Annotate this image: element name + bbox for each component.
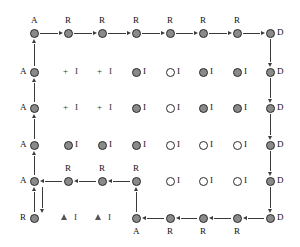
- edge-line-e-top-2: [74, 33, 92, 34]
- node-n-r3c4[interactable]: [132, 104, 141, 113]
- node-n-r6c8[interactable]: [266, 214, 275, 223]
- node-label-n-r1c2: R: [65, 16, 71, 25]
- edge-line-e-bottom-4: [147, 218, 165, 219]
- node-n-r4c3[interactable]: [98, 141, 107, 150]
- node-label-n-r5c7: I: [244, 176, 247, 185]
- node-n-r5c7[interactable]: [233, 177, 242, 186]
- node-n-r4c5[interactable]: [166, 141, 175, 150]
- triangle-symbol-tri-r6c2: [61, 214, 67, 220]
- node-label-n-r3c4: I: [143, 103, 146, 112]
- triangle-label-tri-r6c2: I: [74, 213, 77, 222]
- plus-symbol-plus-r3c3: +: [97, 103, 102, 112]
- node-label-n-r3c6: I: [210, 103, 213, 112]
- diagram-canvas: ARRRRRRDAIIIIDAIIIIDAIIIIIIDARRRIIIDRARR…: [0, 0, 300, 247]
- edge-line-e-left-5: [34, 192, 35, 213]
- arrowhead-e-mid-up: [134, 187, 138, 191]
- node-n-r5c1[interactable]: [30, 177, 39, 186]
- arrowhead-e-right-4: [268, 172, 272, 176]
- edge-line-e-right-1: [270, 39, 271, 62]
- node-n-r1c4[interactable]: [132, 29, 141, 38]
- node-n-r5c4[interactable]: [132, 177, 141, 186]
- node-n-r3c8[interactable]: [266, 104, 275, 113]
- node-label-n-r4c4: I: [143, 140, 146, 149]
- node-n-r5c3[interactable]: [98, 177, 107, 186]
- arrowhead-e-right-5: [268, 209, 272, 213]
- node-label-n-r5c3: R: [99, 164, 105, 173]
- arrowhead-e-left-2: [32, 78, 36, 82]
- node-n-r1c3[interactable]: [98, 29, 107, 38]
- node-label-n-r6c6: R: [200, 227, 206, 236]
- node-label-n-r1c7: R: [234, 16, 240, 25]
- node-label-n-r4c2: I: [75, 140, 78, 149]
- node-n-r2c7[interactable]: [233, 68, 242, 77]
- node-n-r5c5[interactable]: [166, 177, 175, 186]
- node-n-r4c2[interactable]: [64, 141, 73, 150]
- node-label-n-r6c7: R: [234, 227, 240, 236]
- edge-line-e-mid-3: [45, 181, 63, 182]
- node-n-r2c6[interactable]: [199, 68, 208, 77]
- node-n-r5c2[interactable]: [64, 177, 73, 186]
- node-n-r1c2[interactable]: [64, 29, 73, 38]
- arrowhead-e-mid-1: [108, 179, 112, 183]
- node-n-r3c5[interactable]: [166, 104, 175, 113]
- node-label-n-r1c4: R: [133, 16, 139, 25]
- node-n-r2c1[interactable]: [30, 68, 39, 77]
- node-label-n-r4c3: I: [109, 140, 112, 149]
- node-n-r2c5[interactable]: [166, 68, 175, 77]
- arrowhead-e-mid-2: [74, 179, 78, 183]
- node-label-n-r2c8: D: [277, 67, 284, 76]
- node-n-r6c1[interactable]: [30, 214, 39, 223]
- arrowhead-e-top-4: [161, 31, 165, 35]
- edge-line-e-right-2: [270, 78, 271, 98]
- node-n-r3c7[interactable]: [233, 104, 242, 113]
- node-n-r1c6[interactable]: [199, 29, 208, 38]
- plus-label-plus-r3c3: I: [109, 103, 112, 112]
- edge-line-e-mid-2: [79, 181, 97, 182]
- edge-line-e-mid-up: [136, 192, 137, 213]
- arrowhead-e-top-2: [93, 31, 97, 35]
- edge-line-e-right-3: [270, 114, 271, 135]
- node-n-r4c8[interactable]: [266, 141, 275, 150]
- arrowhead-e-top-1: [59, 31, 63, 35]
- node-label-n-r6c1: R: [20, 213, 26, 222]
- node-label-n-r4c1: A: [20, 140, 27, 149]
- node-n-r6c4[interactable]: [132, 214, 141, 223]
- edge-line-e-mid-1: [113, 181, 131, 182]
- node-n-r4c4[interactable]: [132, 141, 141, 150]
- node-n-r4c6[interactable]: [199, 141, 208, 150]
- node-n-r1c1[interactable]: [30, 29, 39, 38]
- edge-line-e-top-5: [176, 33, 193, 34]
- arrowhead-e-top-7: [261, 31, 265, 35]
- node-label-n-r3c8: D: [277, 103, 284, 112]
- node-n-r2c8[interactable]: [266, 68, 275, 77]
- node-n-r1c7[interactable]: [233, 29, 242, 38]
- node-n-r1c5[interactable]: [166, 29, 175, 38]
- node-label-n-r2c1: A: [20, 67, 27, 76]
- node-label-n-r3c1: A: [20, 103, 27, 112]
- arrowhead-e-mid-3: [40, 179, 44, 183]
- node-label-n-r5c5: I: [177, 176, 180, 185]
- arrowhead-e-left-4: [32, 151, 36, 155]
- node-n-r5c8[interactable]: [266, 177, 275, 186]
- edge-line-e-left-3: [34, 119, 35, 140]
- edge-line-e-bottom-3: [181, 218, 198, 219]
- node-n-r2c4[interactable]: [132, 68, 141, 77]
- plus-symbol-plus-r3c2: +: [63, 103, 68, 112]
- node-n-r4c7[interactable]: [233, 141, 242, 150]
- edge-line-e-bottom-2: [214, 218, 232, 219]
- node-n-r6c5[interactable]: [166, 214, 175, 223]
- edge-line-e-left-4: [34, 156, 35, 176]
- arrowhead-e-right-1: [268, 63, 272, 67]
- arrowhead-e-bottom-3: [176, 216, 180, 220]
- node-n-r3c6[interactable]: [199, 104, 208, 113]
- node-n-r3c1[interactable]: [30, 104, 39, 113]
- node-n-r1c8[interactable]: [266, 29, 275, 38]
- node-n-r6c7[interactable]: [233, 214, 242, 223]
- arrowhead-e-bottom-2: [209, 216, 213, 220]
- arrowhead-e-right-2: [268, 99, 272, 103]
- node-n-r5c6[interactable]: [199, 177, 208, 186]
- node-n-r6c6[interactable]: [199, 214, 208, 223]
- node-n-r4c1[interactable]: [30, 141, 39, 150]
- node-label-n-r6c8: D: [277, 213, 284, 222]
- plus-label-plus-r3c2: I: [75, 103, 78, 112]
